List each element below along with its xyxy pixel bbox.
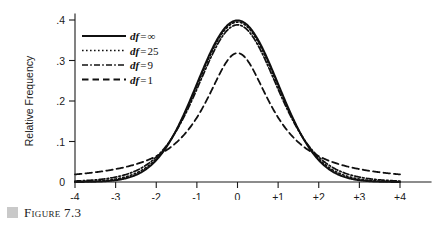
caption-marker-square — [7, 207, 18, 218]
chart-plot-area: -4-3-2-10+1+2+3+40.1.2.3.4 df=∞df=25df=9… — [0, 0, 433, 200]
y-tick-label: .3 — [56, 55, 65, 67]
y-axis-title-text: Relative Frequency — [23, 55, 35, 146]
curve-series-2 — [75, 25, 400, 181]
figure-container: -4-3-2-10+1+2+3+40.1.2.3.4 df=∞df=25df=9… — [0, 0, 433, 235]
x-tick-label: -4 — [70, 191, 79, 200]
x-tick-label: +1 — [272, 191, 284, 200]
legend-label-3: df=1 — [130, 74, 153, 86]
y-axis-title: Relative Frequency — [23, 55, 35, 146]
curve-series-0 — [75, 20, 400, 182]
y-tick-label: .4 — [56, 14, 65, 26]
x-tick-label: +2 — [313, 191, 325, 200]
y-tick-label: 0 — [59, 176, 65, 188]
x-tick-label: +3 — [353, 191, 365, 200]
chart-legend: df=∞df=25df=9df=1 — [82, 30, 159, 86]
x-tick-label: -3 — [111, 191, 120, 200]
y-tick-label: .1 — [56, 136, 65, 148]
x-tick-label: -2 — [152, 191, 161, 200]
legend-label-2: df=9 — [130, 59, 153, 71]
curves-group — [75, 20, 400, 182]
x-tick-label: +4 — [394, 191, 406, 200]
legend-label-1: df=25 — [130, 45, 159, 57]
legend-label-0: df=∞ — [130, 30, 155, 42]
y-tick-label: .2 — [56, 95, 65, 107]
t-distribution-chart: -4-3-2-10+1+2+3+40.1.2.3.4 df=∞df=25df=9… — [0, 0, 433, 200]
x-tick-label: 0 — [235, 191, 241, 200]
figure-caption: Figure 7.3 — [0, 200, 433, 235]
caption-label: Figure 7.3 — [24, 205, 81, 221]
curve-series-3 — [75, 53, 400, 174]
curve-series-1 — [75, 22, 400, 182]
x-tick-label: -1 — [192, 191, 201, 200]
